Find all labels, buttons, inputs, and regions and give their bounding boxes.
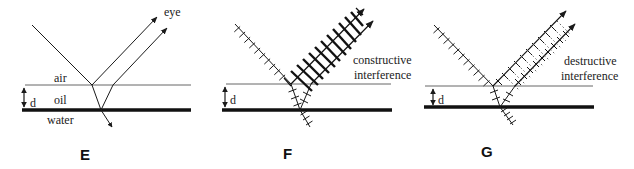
thin-film-interference-diagram: d air oil water eye E [0, 0, 634, 169]
transmitted-ray [101, 110, 112, 127]
internal-reflection [101, 85, 113, 110]
refracted-wave [289, 84, 313, 127]
panel-label-e: E [80, 146, 90, 163]
caption-line-1: constructive [353, 53, 412, 67]
thickness-label: d [230, 93, 236, 107]
incident-wave [434, 25, 494, 86]
panel-e: d air oil water eye E [22, 5, 191, 163]
medium-label-water: water [47, 113, 74, 127]
panel-g: d destructive interference G [424, 11, 618, 160]
incident-wave [234, 24, 291, 84]
caption-line-2: interference [354, 68, 411, 82]
panel-f: d constructive interference F [222, 8, 412, 162]
panel-label-g: G [481, 143, 493, 160]
reflected-ray-2 [113, 28, 167, 85]
reflected-ray-1 [92, 17, 157, 85]
caption-line-2: interference [561, 69, 618, 83]
panel-label-f: F [283, 145, 292, 162]
medium-label-air: air [54, 71, 67, 85]
refracted-ray [92, 85, 101, 110]
eye-label: eye [164, 5, 181, 19]
thickness-label: d [30, 96, 36, 110]
thickness-label: d [438, 93, 444, 107]
caption-line-1: destructive [564, 54, 617, 68]
medium-label-oil: oil [54, 93, 67, 107]
